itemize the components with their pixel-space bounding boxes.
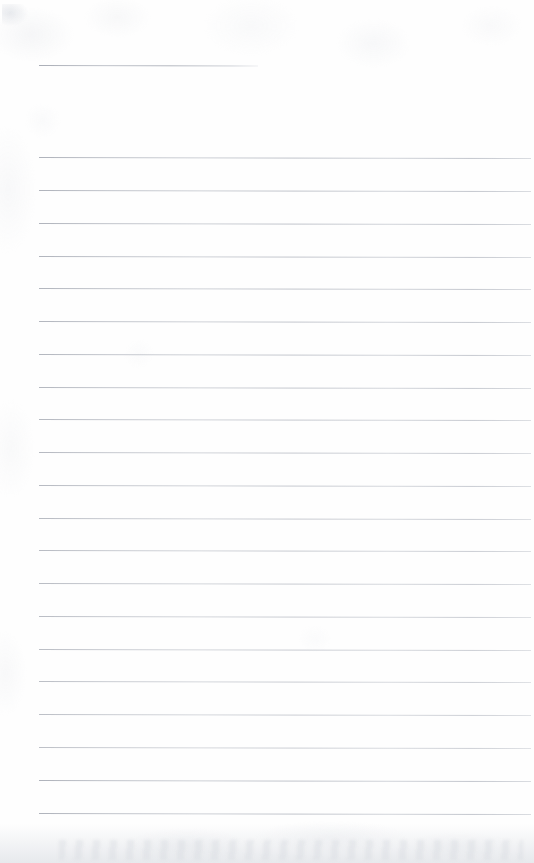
rule-line: [39, 157, 531, 159]
rule-line: [39, 616, 531, 618]
rule-line: [39, 288, 531, 290]
rule-line: [39, 452, 531, 454]
ruled-lines-group: [0, 0, 534, 863]
rule-line: [39, 387, 531, 389]
rule-line: [39, 518, 531, 520]
rule-line: [39, 190, 531, 192]
header-rule-line: [39, 65, 258, 66]
rule-line: [39, 550, 531, 552]
rule-line: [39, 649, 531, 651]
rule-line: [39, 223, 531, 225]
scanned-page: [0, 0, 534, 863]
rule-line: [39, 256, 531, 258]
rule-line: [39, 813, 531, 815]
rule-line: [39, 681, 531, 683]
rule-line: [39, 419, 531, 421]
rule-line: [39, 747, 531, 749]
rule-line: [39, 321, 531, 323]
rule-line: [39, 485, 531, 487]
rule-line: [39, 583, 531, 585]
rule-line: [39, 780, 531, 782]
rule-line: [39, 354, 531, 356]
rule-line: [39, 714, 531, 716]
